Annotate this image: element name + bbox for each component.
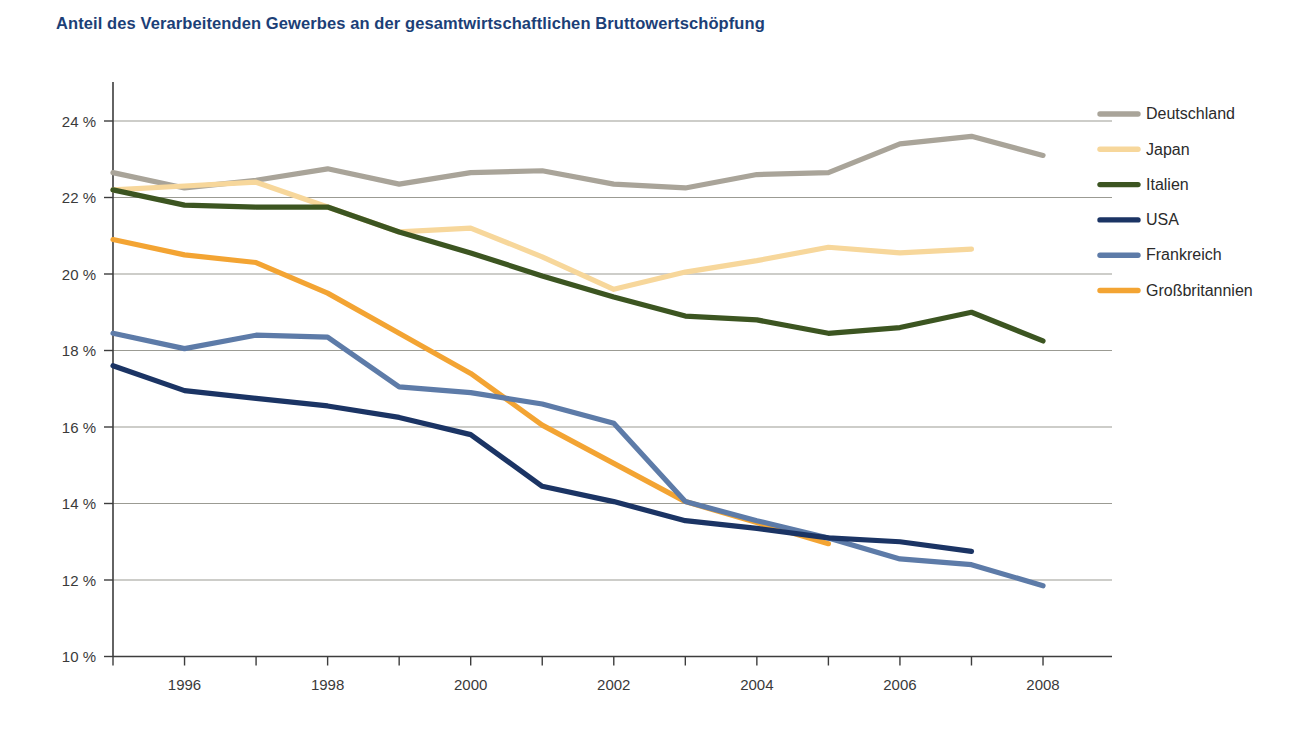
axes-group xyxy=(113,82,1112,657)
legend-label-deutschland[interactable]: Deutschland xyxy=(1146,105,1235,122)
x-axis-labels-group: 1996199820002002200420062008 xyxy=(168,676,1060,693)
line-chart-svg: 10 %12 %14 %16 %18 %20 %22 %24 % 1996199… xyxy=(0,0,1311,739)
x-tick-label: 1998 xyxy=(311,676,344,693)
y-tick-label: 20 % xyxy=(62,266,96,283)
x-tick-label: 2006 xyxy=(883,676,916,693)
series-group xyxy=(113,136,1043,585)
x-tick-label: 2002 xyxy=(597,676,630,693)
legend-label-japan[interactable]: Japan xyxy=(1146,141,1190,158)
y-axis-labels-group: 10 %12 %14 %16 %18 %20 %22 %24 % xyxy=(62,113,96,666)
y-tick-label: 12 % xyxy=(62,572,96,589)
chart-area: 10 %12 %14 %16 %18 %20 %22 %24 % 1996199… xyxy=(0,0,1311,739)
y-tick-label: 14 % xyxy=(62,495,96,512)
y-tick-label: 24 % xyxy=(62,113,96,130)
x-tick-label: 2004 xyxy=(740,676,773,693)
y-tick-label: 18 % xyxy=(62,342,96,359)
gridlines-group xyxy=(113,121,1112,580)
x-tick-label: 2000 xyxy=(454,676,487,693)
x-tick-label: 1996 xyxy=(168,676,201,693)
y-tick-label: 16 % xyxy=(62,419,96,436)
legend: DeutschlandJapanItalienUSAFrankreichGroß… xyxy=(1100,105,1253,299)
series-line-frankreich xyxy=(113,333,1043,585)
legend-label-usa[interactable]: USA xyxy=(1146,211,1179,228)
x-axis-ticks-group xyxy=(113,657,1043,666)
legend-label-frankreich[interactable]: Frankreich xyxy=(1146,246,1222,263)
y-tick-label: 22 % xyxy=(62,189,96,206)
y-tick-label: 10 % xyxy=(62,648,96,665)
legend-label-italien[interactable]: Italien xyxy=(1146,176,1189,193)
series-line-italien xyxy=(113,190,1043,341)
legend-label-gro-britannien[interactable]: Großbritannien xyxy=(1146,282,1253,299)
x-tick-label: 2008 xyxy=(1026,676,1059,693)
y-axis-ticks-group xyxy=(104,121,113,657)
series-line-usa xyxy=(113,366,971,552)
